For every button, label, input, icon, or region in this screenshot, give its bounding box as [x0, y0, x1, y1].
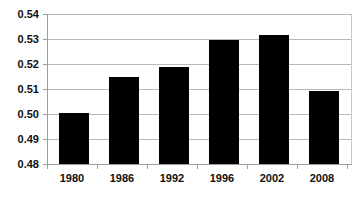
bar-1986	[109, 77, 139, 164]
x-tick-mark-0	[47, 165, 48, 169]
y-axis-line	[47, 14, 48, 165]
plot-right-border	[351, 14, 352, 165]
bar-chart-figure: 0.54 0.53 0.52 0.51 0.50 0.49 0.48 1980 …	[0, 0, 363, 204]
y-axis-label-050: 0.50	[3, 109, 39, 120]
gridline-053	[47, 39, 352, 40]
y-axis-label-051: 0.51	[3, 84, 39, 95]
y-tick-mark-049	[43, 139, 47, 140]
gridline-051	[47, 89, 352, 90]
y-tick-mark-053	[43, 39, 47, 40]
gridline-054	[47, 14, 352, 15]
y-axis-label-054: 0.54	[3, 9, 39, 20]
x-axis-label-1980: 1980	[47, 172, 97, 184]
gridline-049	[47, 139, 352, 140]
y-tick-mark-051	[43, 89, 47, 90]
bar-1996	[209, 40, 239, 164]
x-axis-line	[47, 164, 352, 165]
x-axis-label-1992: 1992	[147, 172, 197, 184]
plot-area	[47, 14, 352, 164]
x-tick-mark-2	[147, 165, 148, 169]
bar-2008	[309, 91, 339, 164]
x-tick-mark-6	[347, 165, 348, 169]
y-tick-mark-052	[43, 64, 47, 65]
y-tick-mark-054	[43, 14, 47, 15]
y-axis-label-053: 0.53	[3, 34, 39, 45]
x-tick-mark-1	[97, 165, 98, 169]
x-axis-label-1986: 1986	[97, 172, 147, 184]
y-axis-label-048: 0.48	[3, 159, 39, 170]
bar-1992	[159, 67, 189, 165]
gridline-050	[47, 114, 352, 115]
y-axis-label-049: 0.49	[3, 134, 39, 145]
x-tick-mark-5	[297, 165, 298, 169]
x-axis-label-2002: 2002	[247, 172, 297, 184]
bar-2002	[259, 35, 289, 164]
bar-1980	[59, 113, 89, 164]
x-axis-label-2008: 2008	[297, 172, 347, 184]
x-axis-label-1996: 1996	[197, 172, 247, 184]
y-tick-mark-050	[43, 114, 47, 115]
y-axis-label-052: 0.52	[3, 59, 39, 70]
x-tick-mark-4	[247, 165, 248, 169]
gridline-052	[47, 64, 352, 65]
x-tick-mark-3	[197, 165, 198, 169]
